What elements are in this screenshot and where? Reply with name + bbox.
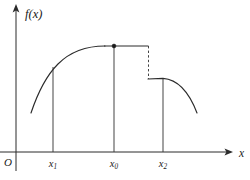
tick-label-x2-subscript: 2 <box>164 163 168 171</box>
x-axis-label: x <box>238 147 245 159</box>
tick-label-x1-subscript: 1 <box>54 163 58 171</box>
origin-label: O <box>4 156 12 168</box>
tick-label-x1: x1 <box>48 158 57 171</box>
tick-label-x2: x2 <box>158 158 168 171</box>
figure-canvas: f(x) x O x1 x0 x2 <box>0 0 250 180</box>
rising-branch-curve <box>31 46 105 113</box>
filled-point-at-x0 <box>112 44 116 48</box>
axes-group <box>0 4 233 171</box>
falling-branch-curve <box>148 78 197 113</box>
tick-label-x0: x0 <box>109 158 119 171</box>
y-axis-label: f(x) <box>25 7 42 21</box>
tick-label-x0-subscript: 0 <box>115 163 119 171</box>
function-graph-svg: f(x) x O x1 x0 x2 <box>0 0 250 180</box>
drop-lines-group <box>53 46 163 152</box>
